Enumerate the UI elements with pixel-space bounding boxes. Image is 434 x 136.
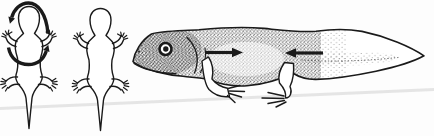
nostril — [138, 51, 140, 53]
illustration-canvas — [0, 0, 434, 136]
pupil — [163, 46, 168, 51]
lateral-view-larva — [128, 18, 424, 107]
eye — [160, 43, 172, 55]
dorsal-view-plain — [72, 9, 129, 131]
salamander-figure — [0, 0, 434, 136]
salamander-dorsal-body — [72, 9, 129, 131]
dorsal-view-with-rotation-arrows — [1, 3, 58, 129]
salamander-dorsal-body — [1, 7, 58, 129]
